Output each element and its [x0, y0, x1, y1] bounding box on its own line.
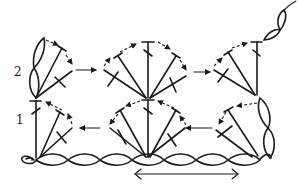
shell-middle: [110, 100, 186, 157]
repeat-arrow: [135, 169, 238, 179]
shell-right-half: [216, 103, 258, 157]
shell-middle: [104, 42, 186, 98]
shell-left-half: [30, 101, 72, 158]
shell-right-half: [214, 42, 262, 95]
shell-left-half: [36, 40, 72, 98]
row-label-2: 2: [14, 66, 22, 78]
crochet-chart: 2 1: [0, 0, 299, 196]
row-2: [30, 1, 296, 98]
row-label-1: 1: [16, 114, 24, 126]
row-1: [30, 100, 258, 158]
